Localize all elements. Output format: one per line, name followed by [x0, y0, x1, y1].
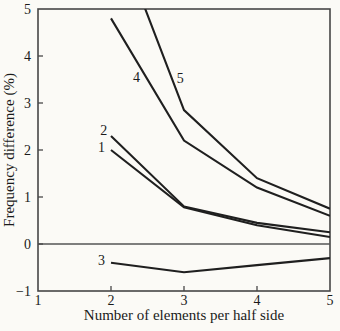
y-tick-label-3: 3 — [24, 96, 31, 111]
y-tick-label-1: 1 — [24, 190, 31, 205]
series-label-5: 5 — [177, 71, 184, 86]
x-tick-label-3: 3 — [181, 293, 188, 308]
x-axis-title: Number of elements per half side — [84, 307, 285, 323]
y-axis-title: Frequency difference (%) — [1, 73, 18, 227]
series-label-2: 2 — [100, 123, 107, 138]
frequency-difference-chart: 12345−101234512345 Number of elements pe… — [0, 0, 340, 331]
series-label-4: 4 — [133, 70, 140, 85]
plot-area — [38, 9, 330, 291]
x-tick-label-1: 1 — [35, 293, 42, 308]
y-tick-label-2: 2 — [24, 143, 31, 158]
y-tick-label-0: 0 — [24, 237, 31, 252]
x-tick-label-4: 4 — [254, 293, 261, 308]
series-label-3: 3 — [98, 253, 105, 268]
x-tick-label-5: 5 — [327, 293, 334, 308]
series-label-1: 1 — [98, 140, 105, 155]
y-tick-label--1: −1 — [16, 284, 31, 299]
y-tick-label-4: 4 — [24, 49, 31, 64]
y-tick-label-5: 5 — [24, 2, 31, 17]
x-tick-label-2: 2 — [108, 293, 115, 308]
frequency-difference-figure: 12345−101234512345 Number of elements pe… — [0, 0, 340, 331]
